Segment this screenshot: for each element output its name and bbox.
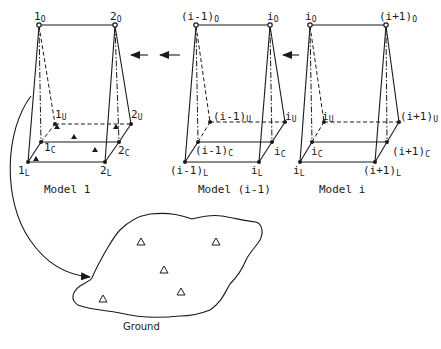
label-i-o: iO — [267, 10, 279, 24]
label-im1-c: (i-1)C — [195, 144, 233, 158]
model-i: iO (i+1)O iU (i+1)U iC (i+1)C iL (i+1)L … — [293, 10, 438, 196]
label-ip1-o: (i+1)O — [379, 10, 417, 24]
triangle-icon — [177, 288, 185, 295]
label-i-u-2: iU — [322, 110, 334, 124]
label-i-l: iL — [251, 164, 263, 178]
label-1u: 1U — [55, 108, 67, 122]
label-ip1-c: (i+1)C — [392, 145, 430, 159]
caption-model-i-minus-1: Model (i-1) — [198, 183, 271, 196]
caption-model-1: Model 1 — [44, 183, 90, 196]
model-i-minus-1: (i-1)O iO (i-1)U iU (i-1)C iC (i-1)L iL … — [170, 10, 297, 196]
triangle-icon — [137, 238, 145, 245]
triangle-icon — [212, 238, 220, 245]
label-im1-o: (i-1)O — [181, 10, 219, 24]
label-i-c-2: iC — [311, 145, 323, 159]
triangle-icon — [99, 295, 107, 302]
caption-model-i: Model i — [319, 183, 365, 196]
strip-triangulation-diagram: 1O 2O 1U 2U 1C 2C 1L 2L Model 1 (i-1)O i — [0, 0, 441, 349]
label-2c: 2C — [118, 144, 130, 158]
ground-label: Ground — [123, 321, 160, 332]
label-2o: 2O — [110, 10, 122, 24]
label-ip1-l: (i+1)L — [363, 164, 401, 178]
label-ip1-u: (i+1)U — [400, 110, 438, 124]
label-i-l-2: iL — [293, 164, 305, 178]
label-2l: 2L — [100, 164, 112, 178]
label-im1-u: (i-1)U — [213, 110, 251, 124]
label-i-c: iC — [274, 145, 286, 159]
label-i-o-2: iO — [305, 10, 317, 24]
triangle-icon — [160, 266, 168, 273]
ground-area: Ground — [73, 213, 262, 332]
ground-control-point-triangles — [99, 238, 220, 302]
label-im1-l: (i-1)L — [170, 164, 208, 178]
label-1o: 1O — [34, 10, 46, 24]
label-1l: 1L — [18, 164, 30, 178]
label-i-u: iU — [285, 110, 297, 124]
label-2u: 2U — [131, 108, 143, 122]
model-1: 1O 2O 1U 2U 1C 2C 1L 2L Model 1 — [18, 10, 143, 196]
label-1c: 1C — [44, 141, 56, 155]
